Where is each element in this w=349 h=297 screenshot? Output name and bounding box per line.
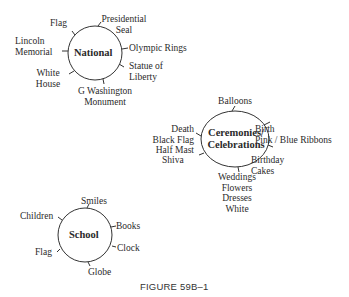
national-item-white-house: White House	[30, 68, 66, 89]
national-hub-label: National	[74, 47, 113, 59]
school-item-flag: Flag	[35, 247, 52, 258]
ceremonies-item-shiva: Shiva	[162, 155, 184, 166]
school-item-children: Children	[20, 211, 53, 222]
national-item-statue-of-liberty: Statue of Liberty	[129, 61, 163, 82]
school-item-books: Books	[116, 221, 140, 232]
school-item-globe: Globe	[88, 267, 111, 278]
national-item-flag: Flag	[50, 18, 67, 29]
ceremonies-item-birth: Birth Pink / Blue Ribbons	[255, 124, 332, 145]
figure-caption: FIGURE 59B–1	[140, 281, 208, 292]
school-hub-label: School	[69, 229, 99, 241]
school-item-smiles: Smiles	[81, 196, 107, 207]
national-item-olympic-rings: Olympic Rings	[129, 43, 187, 54]
ceremonies-item-death: Death Black Flag Half Mast	[140, 124, 194, 156]
national-item-washington-monument: G Washington Monument	[70, 86, 140, 107]
ceremonies-item-weddings: Weddings Flowers Dresses White	[205, 172, 269, 214]
school-item-clock: Clock	[117, 243, 140, 254]
national-item-lincoln-memorial: Lincoln Memorial	[15, 36, 52, 57]
ceremonies-item-balloons: Balloons	[205, 96, 265, 107]
national-item-presidential-seal: Presidential Seal	[96, 14, 152, 35]
